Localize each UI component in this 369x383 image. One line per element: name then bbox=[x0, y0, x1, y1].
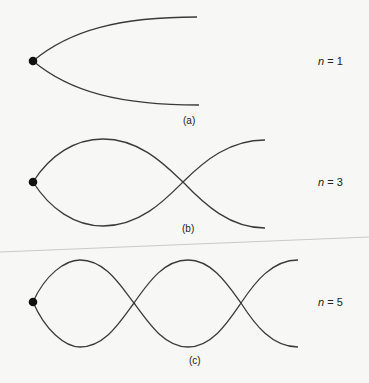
wave-bottom-c bbox=[33, 302, 298, 347]
wave-top-b bbox=[33, 139, 265, 182]
panel-a: (a) n = 1 bbox=[29, 17, 343, 126]
closed-end-dot-c bbox=[29, 298, 38, 307]
wave-bottom-a bbox=[33, 61, 199, 105]
harmonic-label-b: n = 3 bbox=[318, 176, 343, 188]
panel-label-a: (a) bbox=[183, 115, 195, 126]
harmonic-label-a: n = 1 bbox=[318, 55, 343, 67]
wave-top-c bbox=[33, 260, 298, 303]
panel-label-c: (c) bbox=[189, 355, 201, 366]
wave-bottom-b bbox=[33, 182, 265, 228]
closed-end-dot-b bbox=[29, 178, 38, 187]
harmonic-label-c: n = 5 bbox=[318, 296, 343, 308]
closed-end-dot-a bbox=[29, 57, 38, 66]
panel-c: (c) n = 5 bbox=[29, 260, 343, 366]
page-fold-line bbox=[0, 237, 369, 252]
panel-label-b: (b) bbox=[182, 223, 194, 234]
standing-wave-diagram: (a) n = 1 (b) n = 3 (c) n = 5 bbox=[0, 0, 369, 383]
wave-top-a bbox=[33, 17, 197, 61]
panel-b: (b) n = 3 bbox=[29, 139, 343, 234]
